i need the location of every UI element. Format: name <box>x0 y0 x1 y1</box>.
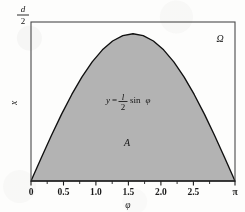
figure-container: 0 0.5 1.0 1.5 2.0 2.5 π φ x d 2 y = l 2 … <box>0 0 245 212</box>
x-tick-label-4: 2.0 <box>155 187 167 197</box>
x-tick-label-3: 1.5 <box>122 187 134 197</box>
equation-equals-sign: = <box>112 95 117 105</box>
region-label-A: A <box>123 137 131 148</box>
y-axis-top-label-fraction: d 2 <box>17 4 29 26</box>
equation-lhs: y <box>105 95 110 105</box>
shaded-region-area <box>31 34 235 181</box>
equation-variable-phi: φ <box>146 95 151 105</box>
x-tick-label-1: 0.5 <box>58 187 70 197</box>
equation-fraction-denominator: 2 <box>121 102 126 112</box>
region-label-omega: Ω <box>216 33 223 44</box>
y-top-label-numerator: d <box>21 4 26 14</box>
x-axis-title: φ <box>125 200 130 210</box>
y-top-label-denominator: 2 <box>21 16 26 26</box>
x-tick-label-2: 1.0 <box>90 187 102 197</box>
plot-svg: 0 0.5 1.0 1.5 2.0 2.5 π φ x d 2 y = l 2 … <box>0 0 245 212</box>
x-tick-label-0: 0 <box>29 187 34 197</box>
x-tick-label-5: 2.5 <box>187 187 199 197</box>
equation-sin-function: sin <box>130 95 141 105</box>
y-axis-title: x <box>9 100 19 106</box>
x-tick-label-6: π <box>232 187 238 197</box>
